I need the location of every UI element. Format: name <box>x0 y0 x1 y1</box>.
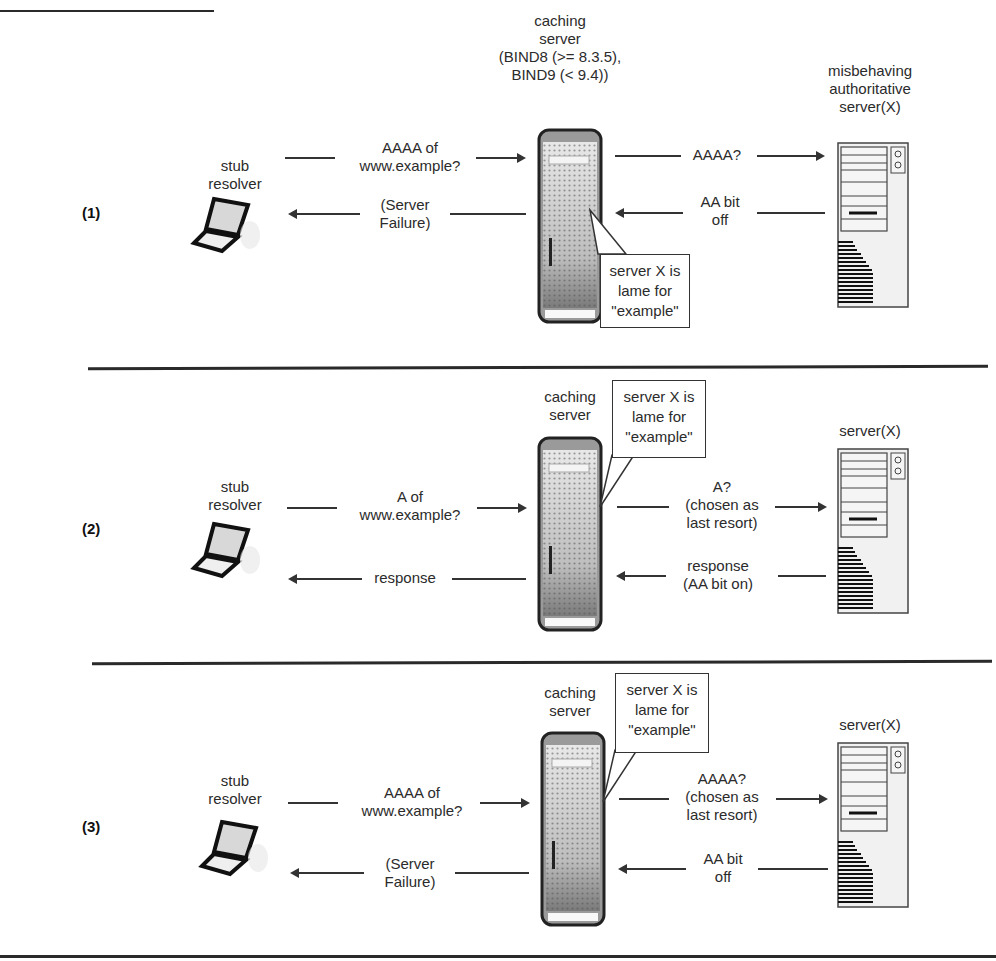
caching-server-icon <box>540 731 606 927</box>
divider-2 <box>92 660 992 665</box>
msg-cache-to-auth: AAAA? <box>682 146 752 164</box>
line-cache-to-client-right <box>452 578 526 580</box>
msg-auth-to-cache: AA bit off <box>688 850 758 886</box>
authoritative-server-icon <box>837 742 909 908</box>
authoritative-server-icon <box>837 448 909 614</box>
panel-number: (3) <box>82 818 100 835</box>
callout-pointer <box>603 750 643 810</box>
msg-client-to-cache: AAAA of www.example? <box>342 784 482 820</box>
divider-1 <box>88 365 988 370</box>
client-label: stub resolver <box>190 478 280 514</box>
line-client-to-cache-left <box>285 157 335 159</box>
callout-pointer <box>600 455 640 515</box>
msg-auth-to-cache: AA bit off <box>685 193 755 229</box>
arrow-cache-to-client <box>290 213 360 215</box>
top-rule <box>0 10 214 12</box>
panel-number: (2) <box>82 520 100 537</box>
client-label: stub resolver <box>190 157 280 193</box>
authoritative-label: misbehaving authoritative server(X) <box>810 62 930 116</box>
authoritative-label: server(X) <box>820 716 920 734</box>
arrow-client-to-cache <box>480 802 528 804</box>
msg-cache-to-auth: AAAA? (chosen as last resort) <box>672 770 772 824</box>
laptop-icon <box>200 818 280 878</box>
callout-lame-server: server X is lame for "example" <box>615 673 709 753</box>
msg-client-to-cache: AAAA of www.example? <box>340 139 480 175</box>
arrow-client-to-cache <box>476 157 524 159</box>
line-cache-to-auth-left <box>615 155 681 157</box>
bottom-rule <box>0 955 996 958</box>
authoritative-server-icon <box>837 142 909 308</box>
arrow-auth-to-cache <box>618 575 666 577</box>
callout-lame-server: server X is lame for "example" <box>600 254 690 328</box>
arrow-cache-to-auth <box>757 155 823 157</box>
callout-pointer <box>590 210 640 260</box>
msg-cache-to-client: (Server Failure) <box>360 196 450 232</box>
arrow-cache-to-auth <box>776 798 826 800</box>
authoritative-label: server(X) <box>820 422 920 440</box>
arrow-cache-to-client <box>290 578 362 580</box>
line-cache-to-client-right <box>450 213 526 215</box>
laptop-icon <box>192 520 272 580</box>
msg-cache-to-client: (Server Failure) <box>365 855 455 891</box>
msg-client-to-cache: A of www.example? <box>340 488 480 524</box>
line-client-to-cache-left <box>287 507 337 509</box>
callout-lame-server: server X is lame for "example" <box>612 380 706 458</box>
arrow-cache-to-client <box>292 872 364 874</box>
cache-label: caching server (BIND8 (>= 8.3.5), BIND9 … <box>470 12 650 84</box>
msg-cache-to-client: response <box>365 569 445 587</box>
arrow-client-to-cache <box>477 507 525 509</box>
line-auth-to-cache-right <box>758 868 828 870</box>
laptop-icon <box>192 195 272 255</box>
arrow-auth-to-cache <box>620 868 686 870</box>
line-cache-to-client-right <box>455 872 529 874</box>
panel-number: (1) <box>82 204 100 221</box>
line-auth-to-cache-right <box>757 212 825 214</box>
msg-auth-to-cache: response (AA bit on) <box>668 557 768 593</box>
cache-label: caching server <box>525 684 615 720</box>
line-auth-to-cache-right <box>778 575 826 577</box>
line-client-to-cache-left <box>288 802 338 804</box>
cache-label: caching server <box>525 388 615 424</box>
arrow-cache-to-auth <box>775 506 825 508</box>
msg-cache-to-auth: A? (chosen as last resort) <box>672 478 772 532</box>
client-label: stub resolver <box>190 772 280 808</box>
caching-server-icon <box>537 436 603 632</box>
